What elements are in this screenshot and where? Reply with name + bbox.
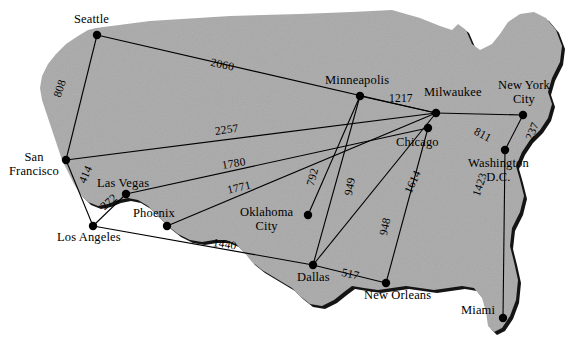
city-node-los_angeles[interactable]: [89, 222, 97, 230]
city-label-miami: Miami: [461, 304, 495, 318]
city-label-dallas: Dallas: [297, 271, 330, 285]
city-node-milwaukee[interactable]: [432, 109, 440, 117]
city-label-phoenix: Phoenix: [133, 207, 175, 221]
city-node-chicago[interactable]: [424, 124, 432, 132]
city-label-seattle: Seattle: [74, 13, 109, 27]
city-node-las_vegas[interactable]: [122, 190, 130, 198]
city-node-new_york_city[interactable]: [519, 111, 527, 119]
city-node-san_francisco[interactable]: [62, 156, 70, 164]
city-node-new_orleans[interactable]: [382, 279, 390, 287]
city-label-chicago: Chicago: [396, 136, 439, 150]
edge-weight-minneapolis-milwaukee: 1217: [389, 92, 413, 104]
city-label-minneapolis: Minneapolis: [325, 74, 389, 88]
city-label-new_orleans: New Orleans: [364, 289, 431, 303]
city-label-las_vegas: Las Vegas: [97, 177, 149, 191]
city-label-oklahoma_city: OklahomaCity: [240, 206, 293, 233]
city-node-seattle[interactable]: [93, 31, 101, 39]
city-label-milwaukee: Milwaukee: [424, 86, 482, 100]
city-node-oklahoma_city[interactable]: [304, 211, 312, 219]
city-node-minneapolis[interactable]: [356, 92, 364, 100]
city-label-new_york_city: New YorkCity: [498, 79, 550, 106]
city-label-san_francisco: SanFrancisco: [9, 151, 59, 178]
city-node-phoenix[interactable]: [163, 222, 171, 230]
city-node-miami[interactable]: [499, 314, 507, 322]
city-label-los_angeles: Los Angeles: [57, 231, 121, 245]
map-diagram: SeattleSanFranciscoLas VegasLos AngelesP…: [0, 0, 588, 350]
city-node-washington_dc[interactable]: [501, 146, 509, 154]
city-node-dallas[interactable]: [309, 261, 317, 269]
